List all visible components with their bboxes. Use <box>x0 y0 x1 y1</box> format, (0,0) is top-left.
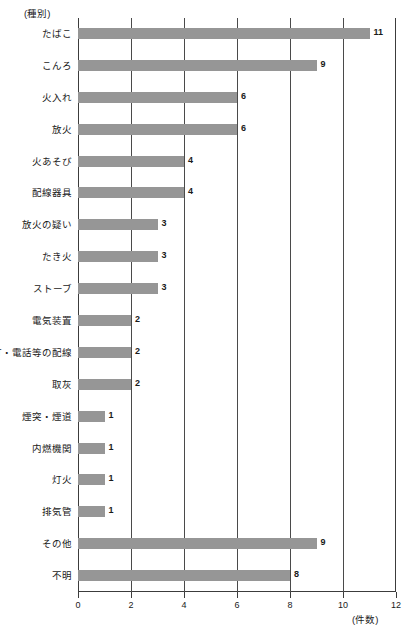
category-label: 煙突・煙道 <box>0 409 72 423</box>
x-tick-label: 10 <box>331 600 355 610</box>
category-label: たき火 <box>0 249 72 263</box>
bar-chart: (種別) たばこ11こんろ9火入れ6放火6火あそび4配線器具4放火の疑い3たき火… <box>0 0 404 631</box>
bar-row: 電気装置2 <box>78 305 396 337</box>
category-label: 放火 <box>0 122 72 136</box>
category-label: 不明 <box>0 568 72 582</box>
bar <box>78 219 158 230</box>
bar <box>78 347 131 358</box>
bar-row: 放火6 <box>78 114 396 146</box>
plot-area: たばこ11こんろ9火入れ6放火6火あそび4配線器具4放火の疑い3たき火3ストーブ… <box>78 18 396 592</box>
bar-value-label: 9 <box>321 537 326 547</box>
bar <box>78 124 237 135</box>
bar-row: ストーブ3 <box>78 273 396 305</box>
category-label: たばこ <box>0 26 72 40</box>
bar-value-label: 6 <box>241 123 246 133</box>
x-tick <box>237 592 238 598</box>
x-tick-label: 2 <box>119 600 143 610</box>
bar-row: 火あそび4 <box>78 146 396 178</box>
category-label: 内燃機関 <box>0 441 72 455</box>
bar-value-label: 3 <box>162 250 167 260</box>
bar-value-label: 4 <box>188 186 193 196</box>
category-label: 放火の疑い <box>0 217 72 231</box>
bar-value-label: 9 <box>321 59 326 69</box>
bar-row: 排気管1 <box>78 496 396 528</box>
bar-value-label: 2 <box>135 346 140 356</box>
category-label: 灯火 <box>0 472 72 486</box>
bar-value-label: 1 <box>109 442 114 452</box>
bar-value-label: 1 <box>109 473 114 483</box>
category-label: 電灯・電話等の配線 <box>0 345 72 359</box>
bar <box>78 92 237 103</box>
bar-row: 不明8 <box>78 560 396 592</box>
x-tick <box>131 592 132 598</box>
bar-row: 電灯・電話等の配線2 <box>78 337 396 369</box>
x-axis-unit-label: (件数) <box>352 612 378 626</box>
bar <box>78 187 184 198</box>
bar-value-label: 2 <box>135 314 140 324</box>
bar <box>78 570 290 581</box>
bar <box>78 283 158 294</box>
x-tick <box>184 592 185 598</box>
bar <box>78 156 184 167</box>
bar <box>78 538 317 549</box>
bar-row: 火入れ6 <box>78 82 396 114</box>
bar-value-label: 11 <box>374 27 384 37</box>
bar <box>78 60 317 71</box>
bar-value-label: 3 <box>162 282 167 292</box>
bar-value-label: 6 <box>241 91 246 101</box>
y-axis-unit-label: (種別) <box>24 6 50 20</box>
bar <box>78 315 131 326</box>
x-tick <box>396 592 397 598</box>
bar <box>78 28 370 39</box>
x-tick-label: 8 <box>278 600 302 610</box>
bar-row: たき火3 <box>78 241 396 273</box>
bar <box>78 379 131 390</box>
bar-value-label: 3 <box>162 218 167 228</box>
category-label: 火入れ <box>0 90 72 104</box>
category-label: 火あそび <box>0 154 72 168</box>
category-label: 取灰 <box>0 377 72 391</box>
bar-value-label: 1 <box>109 410 114 420</box>
category-label: こんろ <box>0 58 72 72</box>
bar-row: 煙突・煙道1 <box>78 401 396 433</box>
bar-row: 放火の疑い3 <box>78 209 396 241</box>
bar <box>78 251 158 262</box>
category-label: 電気装置 <box>0 313 72 327</box>
bar <box>78 506 105 517</box>
bar-value-label: 4 <box>188 155 193 165</box>
bar-value-label: 1 <box>109 505 114 515</box>
x-tick-label: 6 <box>225 600 249 610</box>
category-label: 排気管 <box>0 504 72 518</box>
bar-row: その他9 <box>78 528 396 560</box>
bar-row: 配線器具4 <box>78 177 396 209</box>
bar <box>78 474 105 485</box>
bar-row: 灯火1 <box>78 464 396 496</box>
category-label: ストーブ <box>0 281 72 295</box>
category-label: その他 <box>0 536 72 550</box>
x-tick <box>290 592 291 598</box>
x-tick-label: 0 <box>66 600 90 610</box>
bar-row: 取灰2 <box>78 369 396 401</box>
x-tick <box>78 592 79 598</box>
bar-row: たばこ11 <box>78 18 396 50</box>
x-tick <box>343 592 344 598</box>
bar-row: こんろ9 <box>78 50 396 82</box>
bar-value-label: 2 <box>135 378 140 388</box>
bar-value-label: 8 <box>294 569 299 579</box>
bar <box>78 411 105 422</box>
chart-title-cropped <box>0 0 404 6</box>
bar <box>78 443 105 454</box>
x-tick-label: 12 <box>384 600 404 610</box>
category-label: 配線器具 <box>0 185 72 199</box>
bar-row: 内燃機関1 <box>78 433 396 465</box>
x-tick-label: 4 <box>172 600 196 610</box>
